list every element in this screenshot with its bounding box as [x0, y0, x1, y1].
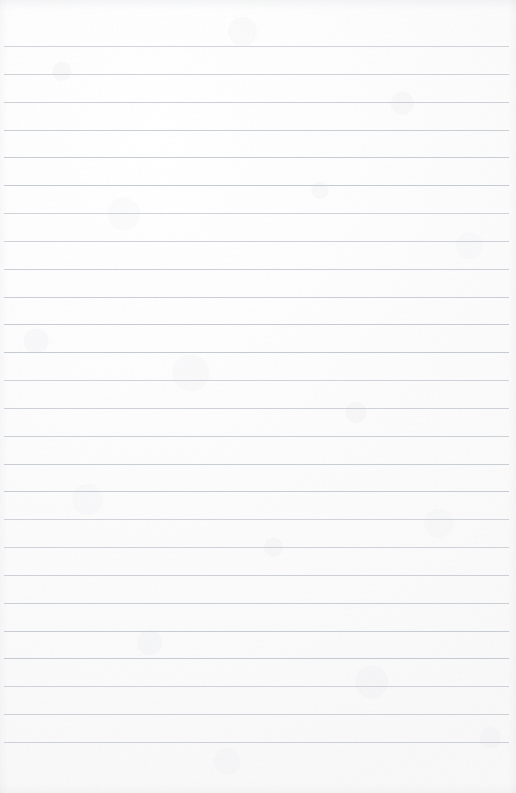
ruled-paper-page	[0, 0, 516, 793]
rule-line	[4, 742, 509, 743]
writing-area[interactable]	[4, 46, 509, 742]
